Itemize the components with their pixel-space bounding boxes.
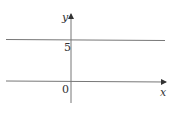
origin-label: 0 <box>62 83 69 96</box>
x-axis-label: x <box>160 86 167 99</box>
graph: y 5 0 x <box>0 0 172 127</box>
x-axis <box>6 81 166 82</box>
line-y-equals-5 <box>6 40 165 41</box>
y-axis-label: y <box>61 11 69 24</box>
tick-label-5: 5 <box>64 41 71 54</box>
